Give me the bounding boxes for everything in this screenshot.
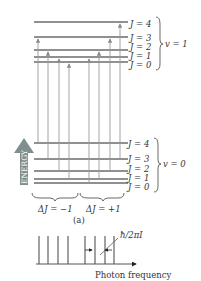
spectrum-lines [39,236,114,264]
upper-brace [156,17,163,70]
lower-level-label: J = 0 [126,182,150,192]
panel-label: (a) [73,215,85,225]
branch-brace-plus [80,193,124,201]
branch-label-minus: ΔJ = −1 [37,204,73,214]
lower-level-label: J = 3 [126,154,149,164]
upper-level-label: J = 4 [128,19,151,29]
upper-level-labels: J = 4 J = 3 J = 2 J = 1 J = 0 [128,19,152,70]
lower-brace [154,138,161,192]
spectrum-xlabel: Photon frequency [95,270,171,280]
branch-brace-minus [32,193,78,201]
lower-level-labels: J = 4 J = 3 J = 2 J = 1 J = 0 [126,139,150,192]
lower-band-label: v = 0 [163,159,186,169]
lower-level-label: J = 4 [126,139,149,149]
branch-label-plus: ΔJ = +1 [85,204,121,214]
upper-level-label: J = 0 [128,60,152,70]
energy-label: ENERGY [20,149,29,184]
spacing-label: ħ/2πI [120,230,143,240]
spacing-leader [100,238,118,255]
upper-band-label: v = 1 [165,39,188,49]
rotational-vibrational-diagram: J = 4 J = 3 J = 2 J = 1 J = 0 v = 1 J = … [0,0,201,281]
